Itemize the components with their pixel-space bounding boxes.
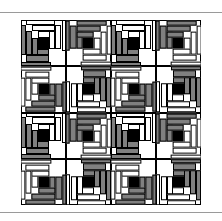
log-r3-bottom (156, 21, 160, 51)
log-r1-right (83, 141, 101, 147)
log-r2-right (71, 176, 77, 200)
log-r2-bottom (146, 176, 152, 199)
quilt-block-r4-c4 (156, 159, 201, 205)
log-r3-right (81, 61, 111, 66)
log-r1-right (121, 78, 139, 84)
log-r3-bottom (171, 66, 201, 71)
block-rotation-r270 (21, 159, 66, 204)
block-rotation-r180 (156, 66, 201, 112)
top-page-rule (0, 12, 222, 13)
log-center (83, 84, 94, 95)
log-r2-left (26, 124, 32, 148)
log-r3-bottom (81, 66, 111, 71)
quilt-block-r2-c1 (21, 66, 66, 112)
log-r2-bottom (26, 55, 49, 61)
block-rotation-r0 (111, 20, 156, 66)
block-rotation-r90 (156, 21, 201, 66)
log-r1-right (31, 78, 49, 84)
log-center (128, 38, 139, 49)
log-center (173, 38, 184, 49)
log-r2-top (122, 117, 145, 123)
log-r1-left (167, 31, 185, 37)
log-r2-right (173, 147, 197, 153)
log-r3-left (115, 107, 146, 112)
log-r3-right (21, 67, 51, 72)
log-r1-left (128, 187, 146, 193)
block-rotation-r270 (111, 159, 156, 204)
log-r2-left (166, 118, 190, 124)
block-rotation-r0 (111, 113, 156, 159)
block-rotation-r0 (21, 20, 66, 66)
quilt-block-r1-c4 (156, 20, 201, 66)
block-rotation-r180 (156, 159, 201, 205)
log-r3-right (111, 159, 141, 164)
log-r2-bottom (83, 163, 106, 169)
log-r2-top (115, 170, 121, 193)
log-r3-left (115, 200, 146, 205)
log-r3-bottom (66, 113, 70, 143)
log-r2-right (115, 164, 139, 170)
log-r3-left (21, 25, 26, 56)
quilt-block-r2-c2 (66, 66, 111, 112)
log-r3-top (77, 200, 107, 205)
log-r2-right (115, 71, 139, 77)
log-r3-right (171, 154, 201, 159)
quilt-block-r3-c2 (66, 113, 111, 159)
log-r1-right (167, 84, 173, 102)
log-r2-left (121, 194, 145, 200)
log-r1-right (77, 84, 83, 102)
log-r3-left (21, 117, 26, 148)
log-r3-bottom (66, 21, 70, 51)
quilt-block-r1-c3 (111, 20, 156, 66)
log-r3-top (197, 118, 201, 148)
quilt-block-r1-c1 (21, 20, 66, 66)
log-center (83, 176, 94, 187)
log-r2-top (122, 25, 145, 31)
log-r2-left (166, 25, 190, 31)
log-r3-left (111, 117, 116, 148)
block-rotation-r180 (66, 159, 111, 205)
log-r3-top (21, 78, 25, 108)
log-cabin-quilt-figure (21, 20, 201, 205)
log-r3-top (26, 113, 56, 118)
log-r2-bottom (116, 55, 139, 61)
block-rotation-r270 (111, 67, 156, 112)
log-r3-left (25, 200, 56, 205)
log-r1-left (77, 124, 95, 130)
log-r3-right (171, 61, 201, 66)
quilt-block-r4-c2 (66, 159, 111, 205)
log-center (38, 176, 49, 187)
quilt-block-r3-c3 (111, 113, 156, 159)
quilt-block-r2-c3 (111, 66, 156, 112)
log-r1-left (167, 124, 185, 130)
log-r2-bottom (116, 148, 139, 154)
log-r3-top (111, 78, 115, 108)
block-rotation-r270 (21, 67, 66, 112)
log-r1-left (122, 38, 128, 56)
log-r2-right (25, 164, 49, 170)
quilt-block-r1-c2 (66, 20, 111, 66)
log-r1-right (77, 176, 83, 194)
block-rotation-r180 (66, 66, 111, 112)
log-r1-right (31, 170, 49, 176)
bottom-page-rule (0, 212, 222, 213)
log-r3-top (116, 20, 146, 25)
log-r3-left (166, 113, 197, 118)
log-r3-left (76, 21, 107, 26)
log-center (173, 130, 184, 141)
log-r2-left (76, 118, 100, 124)
log-r3-right (81, 154, 111, 159)
quilt-block-r2-c4 (156, 66, 201, 112)
log-r3-right (66, 82, 71, 113)
block-rotation-r90 (156, 113, 201, 158)
block-rotation-r0 (21, 113, 66, 159)
block-rotation-r90 (66, 21, 111, 66)
log-r2-bottom (146, 84, 152, 107)
log-r3-left (76, 113, 107, 118)
quilt-block-r3-c1 (21, 113, 66, 159)
log-r1-right (121, 170, 139, 176)
log-r3-right (111, 67, 141, 72)
log-r3-top (116, 113, 146, 118)
log-r2-top (77, 194, 100, 200)
log-r1-left (32, 38, 38, 56)
